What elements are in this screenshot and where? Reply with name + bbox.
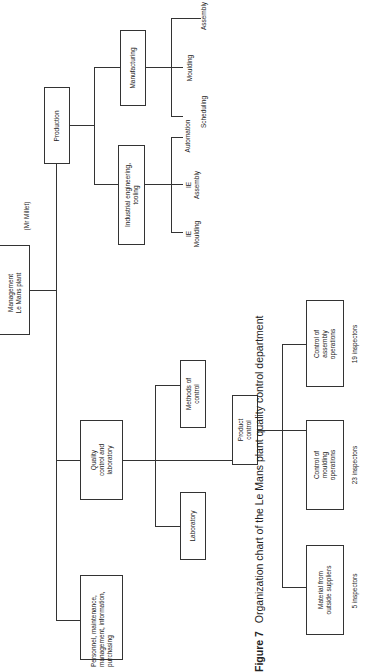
moulding-operations-label: Control of moulding operations bbox=[313, 425, 337, 505]
connector bbox=[171, 137, 172, 233]
connector bbox=[146, 67, 171, 68]
connector bbox=[94, 67, 120, 68]
connector bbox=[70, 125, 94, 126]
quality-control-label: Quality control and laboratory bbox=[90, 420, 114, 500]
connector bbox=[282, 430, 306, 431]
connector bbox=[171, 232, 183, 233]
industrial-engineering-label: Industrial engineering, tooling bbox=[124, 145, 140, 245]
manufacturing-label: Manufacturing bbox=[129, 38, 137, 98]
connector bbox=[171, 18, 201, 19]
ie-moulding-label: IE Moulding bbox=[185, 214, 201, 254]
connector bbox=[56, 620, 80, 621]
connector bbox=[94, 67, 95, 185]
connector bbox=[56, 460, 80, 461]
connector bbox=[145, 184, 171, 185]
figure-caption: Figure 7Organization chart of the Le Man… bbox=[253, 252, 267, 672]
connector bbox=[282, 587, 306, 588]
assembly-label: Assembly bbox=[200, 0, 208, 38]
connector bbox=[94, 184, 118, 185]
automation-label: Automation bbox=[184, 114, 192, 158]
personnel-label: Personnel, maintenance, management, info… bbox=[90, 577, 114, 667]
moulding-operations-count: 23 inspectors bbox=[351, 435, 359, 495]
material-suppliers-label: Material from outside suppliers bbox=[317, 550, 333, 630]
connector bbox=[155, 526, 181, 527]
connector bbox=[123, 460, 232, 461]
connector bbox=[155, 385, 181, 386]
connector bbox=[171, 116, 183, 117]
laboratory-label: Laboratory bbox=[189, 496, 197, 556]
moulding-label: Moulding bbox=[186, 46, 194, 90]
connector bbox=[282, 344, 283, 588]
connector bbox=[171, 137, 183, 138]
assembly-operations-label: Control of assembly operations bbox=[313, 304, 337, 384]
connector bbox=[155, 385, 156, 527]
product-control-label: Product control bbox=[237, 400, 253, 460]
connector bbox=[282, 344, 306, 345]
connector bbox=[171, 184, 183, 185]
assembly-operations-count: 19 inspectors bbox=[351, 314, 359, 374]
material-suppliers-count: 5 inspectors bbox=[351, 561, 359, 621]
management-label: Management Le Mans plant bbox=[7, 248, 23, 338]
methods-of-control-label: Methods of control bbox=[185, 364, 201, 424]
connector bbox=[56, 163, 57, 621]
scheduling-label: Scheduling bbox=[200, 90, 208, 134]
management-note: (Mr Millet) bbox=[23, 186, 31, 246]
production-label: Production bbox=[53, 96, 61, 156]
connector bbox=[30, 290, 56, 291]
ie-assembly-label: IE Assembly bbox=[185, 165, 201, 205]
connector bbox=[171, 67, 183, 68]
